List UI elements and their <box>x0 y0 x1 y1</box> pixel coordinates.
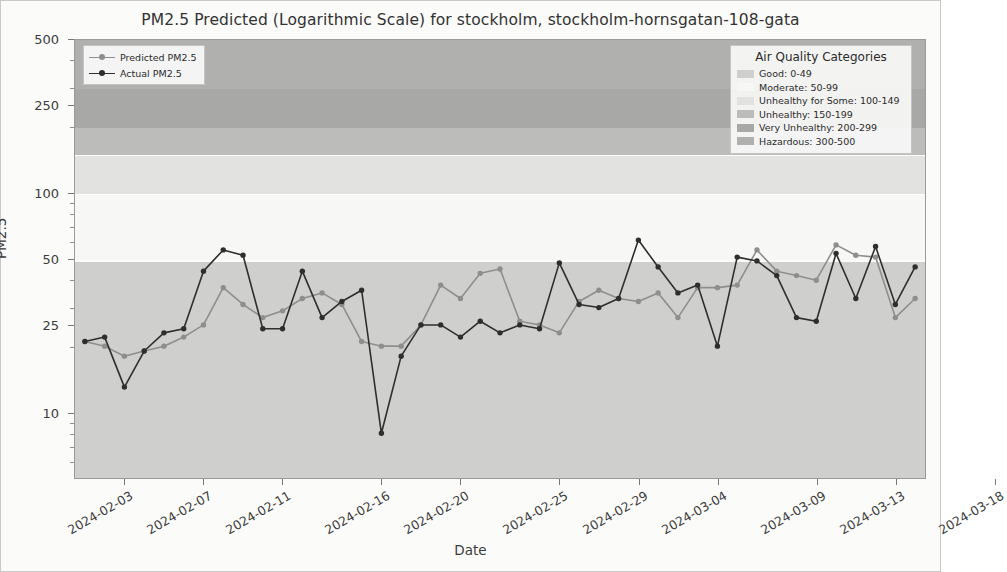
x-tick-label: 2024-03-04 <box>651 488 730 542</box>
x-tick-mark <box>817 479 818 485</box>
y-tick-label: 50 <box>0 252 59 267</box>
x-tick-mark <box>896 479 897 485</box>
category-color-swatch-icon <box>737 124 754 132</box>
x-tick-mark <box>639 479 640 485</box>
x-tick-label: 2024-02-25 <box>492 488 571 542</box>
category-label: Moderate: 50-99 <box>759 82 838 93</box>
x-tick-mark <box>203 479 204 485</box>
x-axis-label: Date <box>1 542 940 558</box>
categories-legend-title: Air Quality Categories <box>737 50 905 64</box>
category-row-hazardous: Hazardous: 300-500 <box>737 135 905 149</box>
series-predicted <box>82 242 918 359</box>
x-tick-mark <box>124 479 125 485</box>
legend-item-predicted: Predicted PM2.5 <box>89 50 197 64</box>
x-tick-mark <box>995 479 996 485</box>
y-tick-label: 25 <box>0 318 59 333</box>
x-tick-label: 2024-02-07 <box>136 488 215 542</box>
category-color-swatch-icon <box>737 97 754 105</box>
x-tick-mark <box>381 479 382 485</box>
x-tick-label: 2024-02-03 <box>57 488 136 542</box>
x-tick-mark <box>460 479 461 485</box>
air-quality-categories-legend: Air Quality Categories Good: 0-49Moderat… <box>730 45 912 154</box>
category-row-moderate: Moderate: 50-99 <box>737 81 905 95</box>
categories-legend-rows: Good: 0-49Moderate: 50-99Unhealthy for S… <box>737 67 905 148</box>
category-row-unhealthy: Unhealthy: 150-199 <box>737 108 905 122</box>
actual-line-swatch-icon <box>89 68 115 78</box>
category-color-swatch-icon <box>737 110 754 118</box>
predicted-line-swatch-icon <box>89 52 115 62</box>
series-legend: Predicted PM2.5 Actual PM2.5 <box>83 45 205 85</box>
x-tick-mark <box>282 479 283 485</box>
legend-label-actual: Actual PM2.5 <box>120 68 182 79</box>
category-row-unhealthy-for-some: Unhealthy for Some: 100-149 <box>737 94 905 108</box>
category-label: Unhealthy: 150-199 <box>759 109 853 120</box>
category-color-swatch-icon <box>737 137 754 145</box>
x-tick-label: 2024-02-16 <box>314 488 393 542</box>
category-label: Good: 0-49 <box>759 68 812 79</box>
x-tick-mark <box>718 479 719 485</box>
x-tick-label: 2024-02-11 <box>215 488 294 542</box>
x-tick-label: 2024-03-13 <box>829 488 908 542</box>
legend-label-predicted: Predicted PM2.5 <box>120 52 197 63</box>
category-row-good: Good: 0-49 <box>737 67 905 81</box>
y-tick-label: 10 <box>0 405 59 420</box>
y-tick-label: 500 <box>0 32 59 47</box>
x-tick-label: 2024-03-09 <box>750 488 829 542</box>
category-color-swatch-icon <box>737 83 754 91</box>
y-tick-label: 250 <box>0 98 59 113</box>
category-label: Very Unhealthy: 200-299 <box>759 122 877 133</box>
y-tick-label: 100 <box>0 185 59 200</box>
chart-title: PM2.5 Predicted (Logarithmic Scale) for … <box>1 11 940 29</box>
category-label: Hazardous: 300-500 <box>759 136 855 147</box>
category-row-very-unhealthy: Very Unhealthy: 200-299 <box>737 121 905 135</box>
category-color-swatch-icon <box>737 70 754 78</box>
x-tick-label: 2024-02-29 <box>572 488 651 542</box>
x-tick-mark <box>559 479 560 485</box>
category-label: Unhealthy for Some: 100-149 <box>759 95 900 106</box>
legend-item-actual: Actual PM2.5 <box>89 66 197 80</box>
x-tick-label: 2024-03-18 <box>928 488 1007 542</box>
x-tick-label: 2024-02-20 <box>393 488 472 542</box>
